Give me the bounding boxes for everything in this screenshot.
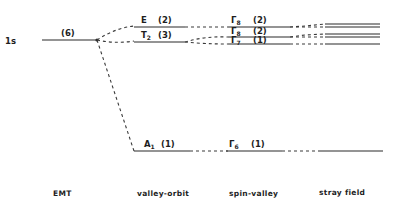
level-t2: T2 (3) [134, 30, 185, 42]
column-label-spin-valley: spin-valley [229, 189, 278, 198]
level-gamma8-upper-degeneracy: (2) [253, 15, 267, 25]
level-e: E (2) [134, 15, 185, 27]
level-e-label: E [141, 15, 147, 25]
connector-t2-gamma8b [185, 37, 228, 42]
connector-t2-gamma7 [185, 42, 228, 44]
level-1s: 1s (6) [5, 28, 99, 46]
connectors-spin-valley-stray-field [282, 24, 325, 151]
connectors-valley-orbit-spin-valley [185, 27, 228, 151]
level-gamma6-label: Γ6 [229, 139, 239, 150]
level-e-degeneracy: (2) [158, 15, 172, 25]
level-t2-degeneracy: (3) [158, 30, 172, 40]
level-gamma8-upper-label: Γ8 [231, 15, 241, 26]
stray-field-levels [318, 24, 383, 151]
level-gamma6: Γ6 (1) [226, 139, 282, 151]
connector-gamma8b-split1 [290, 34, 325, 37]
column-label-emt: EMT [53, 189, 72, 198]
connectors-emt-valley-orbit [97, 26, 134, 151]
connector-gamma8a-split1 [290, 24, 325, 27]
level-a1-label: A1 [144, 139, 155, 150]
level-t2-label: T2 [141, 30, 151, 41]
column-label-valley-orbit: valley-orbit [137, 189, 189, 198]
connector-1s-t2 [97, 40, 134, 42]
level-gamma6-degeneracy: (1) [251, 139, 265, 149]
level-1s-label: 1s [5, 36, 16, 46]
level-a1-degeneracy: (1) [161, 139, 175, 149]
column-label-stray-field: stray field [319, 188, 365, 197]
connector-1s-a1 [97, 40, 134, 151]
column-labels: EMT valley-orbit spin-valley stray field [53, 188, 365, 198]
energy-level-diagram: 1s (6) E (2) T2 (3) A1 (1) Γ8 (2) [0, 0, 405, 205]
level-1s-degeneracy: (6) [61, 28, 75, 38]
level-a1: A1 (1) [134, 139, 190, 151]
connector-1s-e [97, 26, 134, 40]
